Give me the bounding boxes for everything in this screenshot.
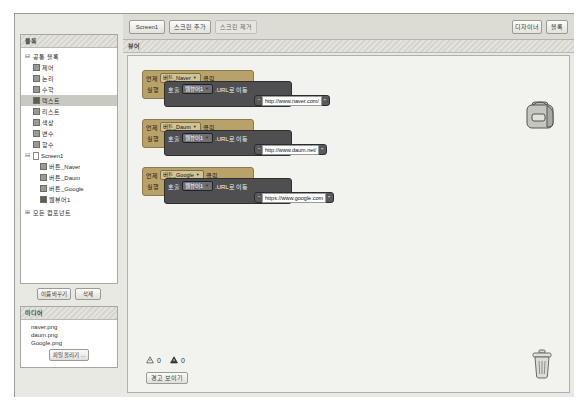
palette-item-label: 웹뷰어1 <box>49 195 70 204</box>
palette-tree: ⊟ 공통 블록 제어 논리 <box>21 48 117 221</box>
palette-item-button-daum[interactable]: 버튼_Daum <box>21 172 117 183</box>
media-file-item[interactable]: Google.png <box>21 339 117 347</box>
palette-item-control[interactable]: 제어 <box>21 62 117 73</box>
block-group-google[interactable]: 언제 버튼_Google ▼ 클릭 실행 호 <box>142 167 254 196</box>
target-component-dropdown[interactable]: 웹뷰어1 ▼ <box>182 181 213 191</box>
chevron-down-icon[interactable]: ▼ <box>205 184 209 188</box>
open-quote-icon: “ <box>258 98 260 104</box>
palette-item-label: 텍스트 <box>42 96 60 105</box>
expander-icon[interactable]: ⊟ <box>24 152 31 159</box>
screen-select-label: Screen1 <box>136 24 158 30</box>
palette-item-webviewer[interactable]: 웹뷰어1 <box>21 194 117 205</box>
chevron-down-icon[interactable]: ▼ <box>205 87 209 91</box>
media-panel-title: 미디어 <box>21 307 117 320</box>
app-screenshot: Favorites Screen1 스크린 추가 스크린 제거 디자이너 블록 … <box>0 0 587 411</box>
call-block-header: 호출 웹뷰어1 ▼ .URL로 이동 <box>168 133 288 143</box>
left-column: 블록 ⊟ 공통 블록 제어 논리 <box>15 14 123 397</box>
palette-item-text[interactable]: 텍스트 <box>21 95 117 106</box>
blocks-toggle-button[interactable]: 블록 <box>546 20 568 34</box>
palette-item-lists[interactable]: 리스트 <box>21 106 117 117</box>
remove-screen-button[interactable]: 스크린 제거 <box>215 20 257 34</box>
tree-group-screen1-label: Screen1 <box>41 153 63 159</box>
text-block-url[interactable]: “ http://www.naver.com/ ” <box>254 95 330 106</box>
trash-icon[interactable] <box>529 348 555 384</box>
method-name: .URL로 이동 <box>215 134 248 143</box>
chevron-down-icon[interactable]: ▼ <box>196 173 200 177</box>
rename-button[interactable]: 이름 바꾸기 <box>37 288 72 300</box>
component-icon <box>40 185 47 192</box>
expander-icon[interactable]: ⊞ <box>24 209 31 216</box>
show-warnings-button[interactable]: 경고 보이기 <box>146 372 188 384</box>
viewer-panel-title: 뷰어 <box>123 40 574 53</box>
screen-select-dropdown[interactable]: Screen1 <box>129 20 165 34</box>
palette-item-label: 변수 <box>42 129 54 138</box>
warning-triangle-icon <box>146 356 154 365</box>
tree-group-builtin[interactable]: ⊟ 공통 블록 <box>21 51 117 62</box>
media-file-list: naver.png daum.png Google.png 파일 올리기 ... <box>21 320 117 365</box>
media-panel: 미디어 naver.png daum.png Google.png 파일 올리기… <box>20 306 118 368</box>
target-component-dropdown[interactable]: 웹뷰어1 ▼ <box>182 84 213 94</box>
palette-item-button-naver[interactable]: 버튼_Naver <box>21 161 117 172</box>
block-category-icon <box>33 64 40 71</box>
block-group-daum[interactable]: 언제 버튼_Daum ▼ 클릭 실행 호출 <box>142 119 254 148</box>
blocks-viewer: 뷰어 언제 버튼_Naver ▼ 클릭 <box>123 40 574 397</box>
palette-item-variables[interactable]: 변수 <box>21 128 117 139</box>
chevron-down-icon[interactable]: ▼ <box>193 76 197 80</box>
blocks-canvas[interactable]: 언제 버튼_Naver ▼ 클릭 실행 호출 <box>127 55 570 393</box>
error-count: 0 <box>181 357 185 364</box>
text-block-url[interactable]: “ https://www.google.com ” <box>254 192 334 203</box>
url-text-field[interactable]: http://www.daum.net/ <box>262 145 319 155</box>
tree-group-screen1[interactable]: ⊟ Screen1 <box>21 150 117 161</box>
media-file-item[interactable]: naver.png <box>21 323 117 331</box>
do-label: 실행 <box>147 182 159 191</box>
palette-item-label: 제어 <box>42 63 54 72</box>
add-screen-button[interactable]: 스크린 추가 <box>169 20 211 34</box>
block-category-icon <box>33 97 40 104</box>
upload-file-button[interactable]: 파일 올리기 ... <box>49 349 90 361</box>
media-upload-row: 파일 올리기 ... <box>21 347 117 362</box>
tree-group-any-component[interactable]: ⊞ 모든 컴포넌트 <box>21 207 117 218</box>
delete-button[interactable]: 삭제 <box>75 288 101 300</box>
open-quote-icon: “ <box>258 195 260 201</box>
warning-count: 0 <box>157 357 161 364</box>
block-category-icon <box>33 130 40 137</box>
warning-counts-row: 0 0 <box>146 355 266 366</box>
component-icon <box>40 196 47 203</box>
method-name: .URL로 이동 <box>215 182 248 191</box>
error-triangle-icon <box>170 356 178 365</box>
call-label: 호출 <box>168 182 180 191</box>
url-text-field[interactable]: http://www.naver.com/ <box>262 96 322 106</box>
expander-icon[interactable]: ⊟ <box>24 53 31 60</box>
palette-item-label: 버튼_Daum <box>49 173 80 182</box>
palette-item-label: 리스트 <box>42 107 60 116</box>
url-text-field[interactable]: https://www.google.com <box>262 193 326 203</box>
palette-item-procedures[interactable]: 함수 <box>21 139 117 150</box>
open-quote-icon: “ <box>258 147 260 153</box>
call-block-header: 호출 웹뷰어1 ▼ .URL로 이동 <box>168 84 288 94</box>
target-component-name: 웹뷰어1 <box>185 134 203 142</box>
text-block-url[interactable]: “ http://www.daum.net/ ” <box>254 144 327 155</box>
method-name: .URL로 이동 <box>215 85 248 94</box>
target-component-dropdown[interactable]: 웹뷰어1 ▼ <box>182 133 213 143</box>
palette-item-colors[interactable]: 색상 <box>21 117 117 128</box>
target-component-name: 웹뷰어1 <box>185 182 203 190</box>
close-quote-icon: ” <box>321 147 323 153</box>
block-group-naver[interactable]: 언제 버튼_Naver ▼ 클릭 실행 호출 <box>142 70 254 99</box>
tree-group-any-component-label: 모든 컴포넌트 <box>33 208 71 217</box>
palette-item-button-google[interactable]: 버튼_Google <box>21 183 117 194</box>
palette-item-logic[interactable]: 논리 <box>21 73 117 84</box>
do-label: 실행 <box>147 134 159 143</box>
designer-toggle-button[interactable]: 디자이너 <box>512 20 542 34</box>
call-label: 호출 <box>168 85 180 94</box>
top-toolbar: Screen1 스크린 추가 스크린 제거 디자이너 블록 <box>123 14 574 40</box>
palette-panel-title: 블록 <box>21 35 117 48</box>
palette-item-label: 색상 <box>42 118 54 127</box>
chevron-down-icon[interactable]: ▼ <box>205 136 209 140</box>
palette-item-math[interactable]: 수학 <box>21 84 117 95</box>
block-category-icon <box>33 86 40 93</box>
do-label: 실행 <box>147 85 159 94</box>
chevron-down-icon[interactable]: ▼ <box>193 125 197 129</box>
media-file-item[interactable]: daum.png <box>21 331 117 339</box>
palette-action-buttons: 이름 바꾸기 삭제 <box>20 288 118 300</box>
backpack-icon[interactable] <box>523 96 557 136</box>
